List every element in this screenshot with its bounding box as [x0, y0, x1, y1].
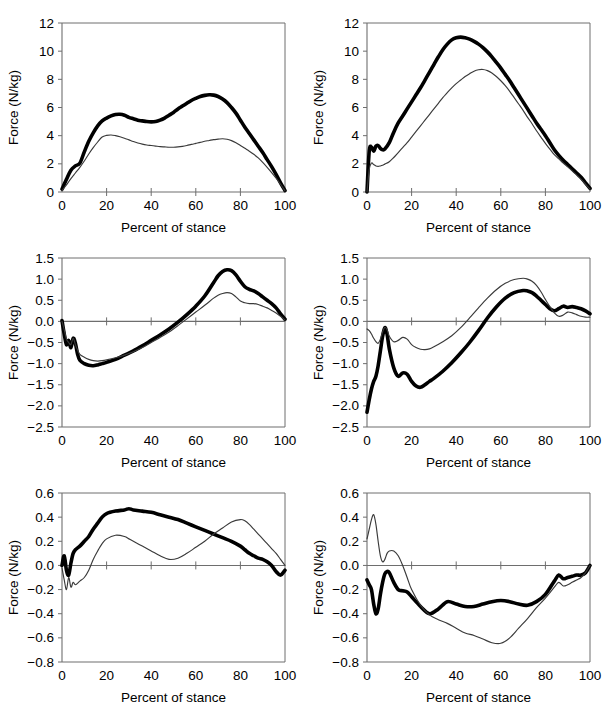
x-tick-label: 100: [274, 668, 297, 683]
y-tick-label: 1.5: [340, 251, 359, 266]
y-tick-label: 8: [351, 72, 359, 87]
x-tick-label: 60: [493, 433, 508, 448]
x-axis-title: Percent of stance: [121, 690, 226, 705]
y-tick-label: −0.4: [332, 606, 359, 621]
y-tick-label: 0.4: [340, 510, 359, 525]
plot-frame: [62, 23, 285, 192]
y-tick-label: −1.5: [27, 377, 54, 392]
plot-panel-middle-left: −2.5−2.0−1.5−1.0−0.50.00.51.01.502040608…: [0, 235, 305, 470]
series-line-thick: [62, 270, 285, 366]
y-tick-label: 0.2: [35, 534, 54, 549]
x-tick-label: 80: [233, 198, 248, 213]
x-tick-label: 60: [188, 668, 203, 683]
y-tick-label: 1.5: [35, 251, 54, 266]
x-tick-label: 40: [144, 433, 159, 448]
plot-frame: [367, 23, 590, 192]
series-line-thick: [62, 95, 285, 191]
x-axis-title: Percent of stance: [426, 690, 531, 705]
y-axis-title: Force (N/kg): [6, 540, 21, 615]
y-tick-label: −0.6: [332, 630, 359, 645]
y-tick-label: −1.5: [332, 377, 359, 392]
y-tick-label: 0.2: [340, 534, 359, 549]
x-tick-label: 40: [144, 668, 159, 683]
y-axis-title: Force (N/kg): [311, 70, 326, 145]
x-tick-label: 40: [449, 668, 464, 683]
y-tick-label: −0.2: [332, 582, 359, 597]
x-tick-label: 100: [579, 433, 602, 448]
y-tick-label: 0.0: [340, 558, 359, 573]
x-tick-label: 20: [404, 668, 419, 683]
y-tick-label: 0.4: [35, 510, 54, 525]
x-tick-label: 0: [58, 668, 66, 683]
y-axis-title: Force (N/kg): [311, 540, 326, 615]
plot-panel-bottom-left: −0.8−0.6−0.4−0.20.00.20.40.6020406080100…: [0, 470, 305, 705]
x-axis-title: Percent of stance: [426, 455, 531, 470]
y-tick-label: −0.5: [27, 335, 54, 350]
y-tick-label: 0.0: [340, 314, 359, 329]
plot-panel-top-left: 024681012020406080100Percent of stanceFo…: [0, 0, 305, 235]
y-tick-label: 2: [351, 156, 359, 171]
y-tick-label: 0.5: [35, 293, 54, 308]
y-axis-title: Force (N/kg): [311, 305, 326, 380]
y-tick-label: 8: [46, 72, 54, 87]
y-tick-label: −2.0: [332, 398, 359, 413]
y-tick-label: −0.8: [27, 655, 54, 670]
y-tick-label: 0.5: [340, 293, 359, 308]
y-tick-label: −1.0: [27, 356, 54, 371]
x-axis-title: Percent of stance: [426, 220, 531, 235]
y-tick-label: 12: [39, 16, 54, 31]
y-tick-label: 0.6: [35, 486, 54, 501]
x-tick-label: 0: [363, 668, 371, 683]
plot-panel-bottom-right: −0.8−0.6−0.4−0.20.00.20.40.6020406080100…: [305, 470, 610, 705]
x-tick-label: 20: [404, 198, 419, 213]
y-tick-label: 0: [46, 185, 54, 200]
y-tick-label: −0.6: [27, 630, 54, 645]
series-line-thin: [62, 135, 285, 191]
x-tick-label: 100: [579, 668, 602, 683]
x-tick-label: 100: [274, 198, 297, 213]
y-tick-label: 0.0: [35, 558, 54, 573]
plot-frame: [62, 258, 285, 427]
x-tick-label: 60: [493, 198, 508, 213]
x-tick-label: 40: [449, 198, 464, 213]
series-line-thin: [367, 278, 590, 349]
x-tick-label: 80: [538, 198, 553, 213]
force-stance-figure: 024681012020406080100Percent of stanceFo…: [0, 0, 610, 707]
y-tick-label: 2: [46, 156, 54, 171]
plot-panel-top-right: 024681012020406080100Percent of stanceFo…: [305, 0, 610, 235]
x-tick-label: 40: [449, 433, 464, 448]
x-tick-label: 0: [363, 198, 371, 213]
series-line-thick: [367, 37, 590, 192]
series-line-thin: [367, 69, 590, 192]
x-axis-title: Percent of stance: [121, 220, 226, 235]
y-tick-label: 4: [46, 128, 54, 143]
y-tick-label: 0.6: [340, 486, 359, 501]
x-tick-label: 20: [99, 433, 114, 448]
x-axis-title: Percent of stance: [121, 455, 226, 470]
y-axis-title: Force (N/kg): [6, 305, 21, 380]
x-tick-label: 20: [404, 433, 419, 448]
y-tick-label: 6: [351, 100, 359, 115]
y-tick-label: 1.0: [340, 272, 359, 287]
x-tick-label: 60: [188, 198, 203, 213]
plot-panel-middle-right: −2.5−2.0−1.5−1.0−0.50.00.51.01.502040608…: [305, 235, 610, 470]
y-tick-label: −2.5: [332, 420, 359, 435]
y-tick-label: 6: [46, 100, 54, 115]
y-axis-title: Force (N/kg): [6, 70, 21, 145]
y-tick-label: 0: [351, 185, 359, 200]
y-tick-label: −0.5: [332, 335, 359, 350]
y-tick-label: 10: [39, 44, 54, 59]
x-tick-label: 0: [58, 198, 66, 213]
x-tick-label: 100: [579, 198, 602, 213]
y-tick-label: −0.8: [332, 655, 359, 670]
y-tick-label: −0.2: [27, 582, 54, 597]
y-tick-label: 4: [351, 128, 359, 143]
x-tick-label: 100: [274, 433, 297, 448]
x-tick-label: 80: [233, 668, 248, 683]
x-tick-label: 80: [538, 668, 553, 683]
x-tick-label: 20: [99, 668, 114, 683]
x-tick-label: 20: [99, 198, 114, 213]
x-tick-label: 40: [144, 198, 159, 213]
y-tick-label: 10: [344, 44, 359, 59]
y-tick-label: −0.4: [27, 606, 54, 621]
